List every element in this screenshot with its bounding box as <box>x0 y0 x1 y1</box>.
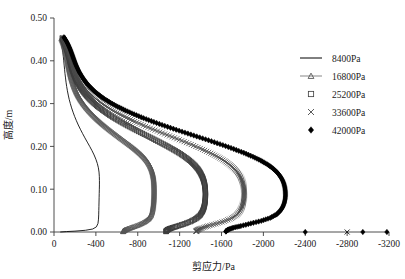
y-tick-label: 0.00 <box>30 227 47 237</box>
legend-label: 25200Pa <box>332 90 366 100</box>
x-tick-label: 0 <box>52 239 57 249</box>
series-line <box>64 37 286 231</box>
legend-label: 8400Pa <box>332 54 361 64</box>
y-tick-label: 0.30 <box>30 99 47 109</box>
marker-diamond <box>308 127 313 133</box>
x-tick-label: -800 <box>129 239 147 249</box>
plot-canvas: 0.000.100.200.300.400.500-400-800-1200-1… <box>0 0 405 279</box>
legend-label: 16800Pa <box>332 72 366 82</box>
series-42000Pa <box>62 35 288 235</box>
x-tick-label: -2400 <box>294 239 316 249</box>
shear-stress-height-chart: 0.000.100.200.300.400.500-400-800-1200-1… <box>0 0 405 279</box>
series-layer <box>59 35 288 235</box>
y-axis-title: 高度/m <box>2 110 14 141</box>
legend-item-42000Pa[interactable]: 42000Pa <box>308 126 366 136</box>
marker-cross <box>308 109 314 115</box>
y-tick-label: 0.10 <box>30 185 47 195</box>
x-tick-label: -3200 <box>378 239 400 249</box>
legend-item-8400Pa[interactable]: 8400Pa <box>300 54 361 64</box>
y-tick-label: 0.50 <box>30 13 47 23</box>
y-tick-label: 0.40 <box>30 56 47 66</box>
x-tick-label: -2000 <box>252 239 274 249</box>
legend-item-16800Pa[interactable]: 16800Pa <box>300 72 366 82</box>
marker-diamond <box>303 229 307 234</box>
legend-item-33600Pa[interactable]: 33600Pa <box>308 108 366 118</box>
marker-diamond <box>361 229 365 234</box>
x-tick-label: -1600 <box>210 239 232 249</box>
marker-diamond <box>385 229 389 234</box>
legend-label: 33600Pa <box>332 108 366 118</box>
x-axis-title: 剪应力/Pa <box>192 260 235 272</box>
x-tick-label: -400 <box>87 239 105 249</box>
marker-square <box>308 91 313 96</box>
x-tick-label: -1200 <box>169 239 191 249</box>
chart-legend: 8400Pa16800Pa25200Pa33600Pa42000Pa <box>300 54 366 136</box>
x-tick-label: -2800 <box>336 239 358 249</box>
legend-label: 42000Pa <box>332 126 366 136</box>
y-tick-label: 0.20 <box>30 142 47 152</box>
legend-item-25200Pa[interactable]: 25200Pa <box>308 90 366 100</box>
